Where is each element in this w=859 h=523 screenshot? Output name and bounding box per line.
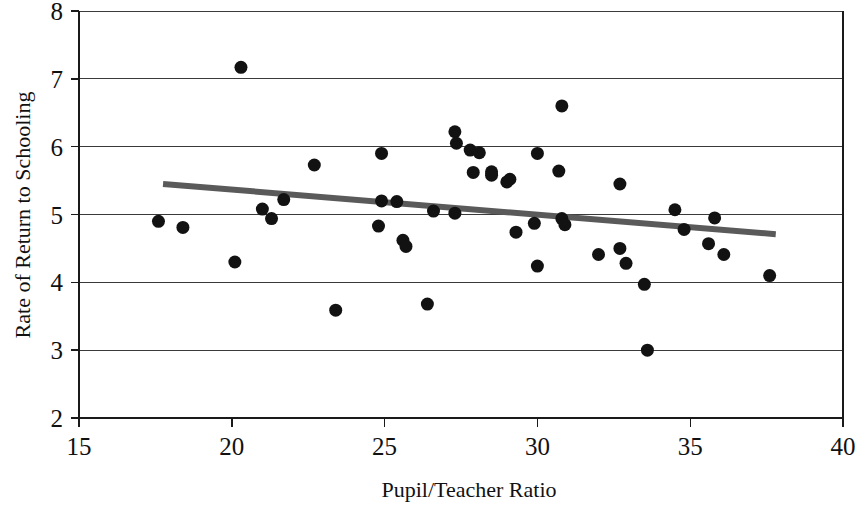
x-tick-label-20: 20 <box>219 433 244 460</box>
y-tick-label-2: 2 <box>51 405 64 432</box>
x-axis-tick-labels: 152025303540 <box>67 433 856 460</box>
data-point <box>390 195 403 208</box>
data-point <box>531 147 544 160</box>
data-point <box>668 203 681 216</box>
data-point <box>427 205 440 218</box>
data-point <box>372 220 385 233</box>
data-point <box>555 99 568 112</box>
y-tick-label-3: 3 <box>51 337 64 364</box>
data-point <box>375 194 388 207</box>
x-tick-label-15: 15 <box>67 433 92 460</box>
x-axis-title: Pupil/Teacher Ratio <box>381 477 556 502</box>
y-tick-label-4: 4 <box>51 269 64 296</box>
data-point <box>558 218 571 231</box>
data-point <box>552 165 565 178</box>
data-point <box>592 248 605 261</box>
data-point <box>329 304 342 317</box>
data-point <box>528 217 541 230</box>
data-point <box>500 175 513 188</box>
data-point <box>152 215 165 228</box>
data-point <box>256 203 269 216</box>
data-point <box>421 298 434 311</box>
data-point <box>375 147 388 160</box>
data-point <box>228 255 241 268</box>
scatter-chart: 2345678 152025303540 Pupil/Teacher Ratio… <box>0 0 859 523</box>
data-point <box>308 158 321 171</box>
data-point <box>613 242 626 255</box>
y-tick-label-5: 5 <box>51 202 64 229</box>
y-tick-label-7: 7 <box>51 66 64 93</box>
data-point <box>531 260 544 273</box>
data-point <box>702 237 715 250</box>
plot-area: 2345678 152025303540 Pupil/Teacher Ratio… <box>0 0 859 523</box>
data-point <box>176 221 189 234</box>
y-tick-label-6: 6 <box>51 134 64 161</box>
x-tick-label-35: 35 <box>678 433 703 460</box>
data-point <box>613 177 626 190</box>
data-point <box>763 269 776 282</box>
x-tick-label-25: 25 <box>372 433 397 460</box>
data-point <box>448 207 461 220</box>
data-point <box>473 146 486 159</box>
data-point <box>678 223 691 236</box>
data-point <box>641 344 654 357</box>
data-point <box>265 212 278 225</box>
data-point <box>708 211 721 224</box>
data-point <box>277 193 290 206</box>
x-tick-label-30: 30 <box>525 433 550 460</box>
data-point <box>399 240 412 253</box>
data-point <box>234 61 247 74</box>
data-point <box>485 169 498 182</box>
data-point <box>638 278 651 291</box>
data-point <box>620 257 633 270</box>
data-point <box>510 226 523 239</box>
data-point <box>717 248 730 261</box>
data-point <box>467 166 480 179</box>
y-axis-tick-labels: 2345678 <box>51 0 64 432</box>
data-point <box>450 137 463 150</box>
y-tick-label-8: 8 <box>51 0 64 25</box>
data-point <box>448 125 461 138</box>
x-tick-label-40: 40 <box>831 433 856 460</box>
y-axis-title: Rate of Return to Schooling <box>10 92 35 339</box>
